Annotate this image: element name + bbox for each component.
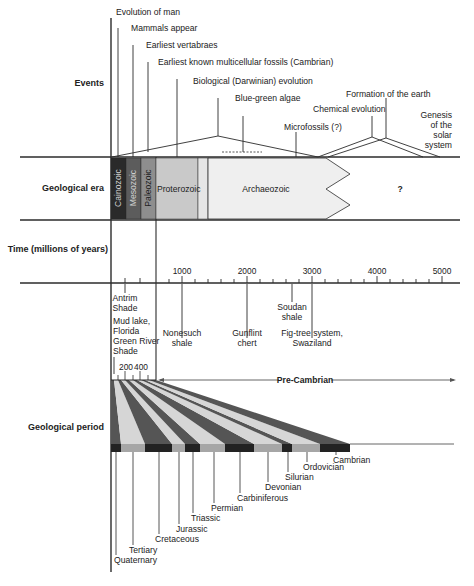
marker-nonesuch-shale: Nonesuch shale [163,328,202,348]
marker-fig-tree-system: Fig-tree system, Swaziland [281,328,343,348]
period-label-silurian: Silurian [285,472,314,482]
period-seg-jurassic [172,444,185,452]
period-label-cambrian: Cambrian [333,455,370,465]
svg-text:Swaziland: Swaziland [292,338,331,348]
event-label-chemical-evolution: Chemical evolution [313,104,386,114]
row-label-events: Events [74,78,104,88]
svg-text:Antrim: Antrim [113,293,138,303]
period-label-devonian: Devonian [265,482,302,492]
era-label-archaeozoic: Archaeozoic [242,184,290,194]
event-label-mammals-appear: Mammals appear [131,23,198,33]
marker-soudan-shale: Soudan shale [277,302,307,322]
svg-text:Gunflint: Gunflint [232,328,262,338]
period-seg-tertiary [121,444,145,452]
period-seg-carboniferous [225,444,254,452]
marker-mud-lake-green-river: Mud lake, Florida Green River Shade [113,316,159,356]
event-label-earliest-vertebrates: Earliest vertabraes [146,40,218,50]
svg-text:Genesis: Genesis [420,110,452,120]
row-label-time: Time (millions of years) [8,244,108,254]
svg-text:Shade: Shade [113,303,138,313]
svg-text:Soudan: Soudan [277,302,307,312]
period-bar [111,444,350,452]
svg-text:shale: shale [282,312,303,322]
event-label-evolution-of-man: Evolution of man [116,7,180,17]
svg-text:shale: shale [172,338,193,348]
event-label-microfossils: Microfossils (?) [284,122,342,132]
event-label-blue-green-algae: Blue-green algae [235,93,301,103]
marker-gunflint-chert: Gunflint chert [232,328,262,348]
period-seg-silurian [282,444,292,452]
fine-tick-200: 200 [119,362,133,372]
time-tick-5000: 5000 [433,266,452,276]
svg-text:solar: solar [433,130,452,140]
era-label-paleozoic: Paleozoic [143,169,153,207]
row-label-period: Geological period [28,422,104,432]
period-seg-cambrian [320,444,350,452]
svg-text:Florida: Florida [113,326,139,336]
period-seg-triassic [185,444,200,452]
time-tick-2000: 2000 [238,266,257,276]
period-seg-cretaceous [145,444,172,452]
era-label-mesozoic: Mesozoic [128,169,138,206]
event-label-earliest-multicellular: Earliest known multicellular fossils (Ca… [158,57,333,67]
period-seg-devonian [254,444,282,452]
time-tick-1000: 1000 [173,266,192,276]
period-label-cretaceous: Cretaceous [155,534,199,544]
period-label-carboniferous: Carbiniferous [237,493,288,503]
era-label-unknown: ? [397,184,402,194]
period-label-jurassic: Jurassic [176,524,208,534]
time-tick-4000: 4000 [368,266,387,276]
fine-scale-ticks [118,371,148,380]
precambrian-label: Pre-Cambrian [277,375,333,385]
svg-text:Fig-tree system,: Fig-tree system, [281,328,343,338]
time-axis-ticks [125,276,442,283]
period-seg-quaternary [111,444,121,452]
event-label-genesis-solar-system: Genesis of the solar system [420,110,452,150]
event-label-formation-of-earth: Formation of the earth [346,89,431,99]
svg-text:Mud lake,: Mud lake, [113,316,150,326]
event-label-biological-evolution: Biological (Darwinian) evolution [193,76,313,86]
geologic-time-diagram: Events Geological era Time (millions of … [0,0,474,586]
period-label-permian: Permian [211,503,243,513]
svg-text:Nonesuch: Nonesuch [163,328,202,338]
svg-text:system: system [425,140,452,150]
svg-text:Green River: Green River [113,336,159,346]
period-label-tertiary: Tertiary [129,545,158,555]
period-label-triassic: Triassic [191,513,221,523]
marker-antrim-shade: Antrim Shade [113,293,138,313]
period-seg-ordovician [292,444,320,452]
time-tick-3000: 3000 [303,266,322,276]
fine-tick-400: 400 [134,362,148,372]
era-label-proterozoic: Proterozoic [157,184,201,194]
row-label-era: Geological era [42,183,105,193]
period-label-quaternary: Quaternary [114,555,158,565]
period-fan [111,380,350,444]
svg-text:of the: of the [430,120,452,130]
svg-text:Shade: Shade [113,346,138,356]
svg-text:chert: chert [237,338,257,348]
era-label-cainozoic: Cainozoic [113,168,123,206]
precambrian-arrow-right-icon [450,378,456,382]
period-seg-permian [200,444,225,452]
